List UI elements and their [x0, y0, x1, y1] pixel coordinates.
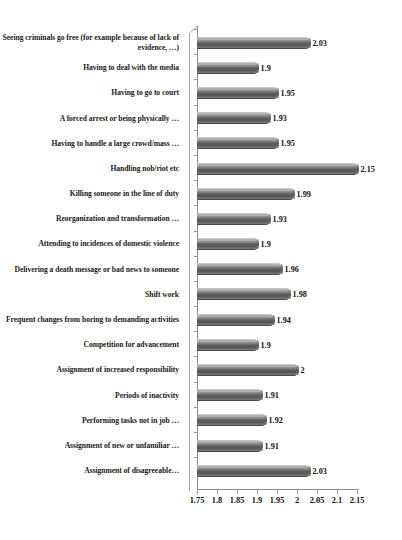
bar-value-label: 1.91 [265, 441, 279, 450]
category-label: Having to go to court [0, 88, 185, 97]
bar-chart: Seeing criminals go free (for example be… [0, 0, 402, 540]
bar-row: Assignment of new or unfamiliar …1.91 [0, 433, 402, 458]
bar-row: Reorganization and transformation …1.93 [0, 206, 402, 231]
bar [197, 465, 309, 477]
bar-value-label: 1.95 [281, 88, 295, 97]
bar-row: Assignment of disagreeable…2.03 [0, 458, 402, 483]
x-axis-tick [197, 489, 198, 494]
x-axis-tick [357, 489, 358, 494]
bar-value-label: 1.9 [261, 340, 271, 349]
bar-plot-cell: 1.91 [185, 383, 402, 408]
category-label: Competition for advancement [0, 340, 185, 349]
bar-plot-cell: 1.94 [185, 307, 402, 332]
bar-value-label: 1.93 [273, 214, 287, 223]
bar-plot-cell: 1.93 [185, 206, 402, 231]
x-axis-tick [337, 489, 338, 494]
bar-value-label: 1.99 [297, 189, 311, 198]
y-axis-tick [194, 457, 198, 458]
x-axis-tick-label: 2.1 [332, 496, 342, 505]
y-axis-tick [194, 331, 198, 332]
bar-plot-cell: 2.03 [185, 458, 402, 483]
x-axis-tick [217, 489, 218, 494]
y-axis-tick [194, 306, 198, 307]
category-label: A forced arrest or being physically … [0, 114, 185, 123]
category-label: Attending to incidences of domestic viol… [0, 239, 185, 248]
bar-plot-cell: 2.15 [185, 156, 402, 181]
bar-value-label: 1.9 [261, 63, 271, 72]
bar-value-label: 2.03 [313, 466, 327, 475]
bar-row: Performing tasks not in job …1.92 [0, 408, 402, 433]
x-axis-tick-label: 1.85 [230, 496, 245, 505]
bar-plot-cell: 1.95 [185, 131, 402, 156]
bar [197, 263, 281, 275]
bar-row: Competition for advancement1.9 [0, 332, 402, 357]
bar-row: Having to go to court1.95 [0, 80, 402, 105]
x-axis-tick-label: 1.9 [252, 496, 262, 505]
x-axis-tick [257, 489, 258, 494]
y-axis-tick [194, 231, 198, 232]
bar-row: Killing someone in the line of duty1.99 [0, 181, 402, 206]
bar [197, 389, 261, 401]
bar [197, 288, 289, 300]
bar-plot-cell: 1.9 [185, 55, 402, 80]
bar-value-label: 1.93 [273, 114, 287, 123]
category-label: Having to handle a large crowd/mass … [0, 139, 185, 148]
y-axis-tick [194, 155, 198, 156]
bar-value-label: 1.95 [281, 139, 295, 148]
bar-plot-cell: 1.9 [185, 332, 402, 357]
bar-value-label: 1.9 [261, 240, 271, 249]
bar [197, 137, 277, 149]
bar [197, 112, 269, 124]
bar [197, 314, 273, 326]
bar-row: Seeing criminals go free (for example be… [0, 30, 402, 55]
bar-value-label: 2.03 [313, 38, 327, 47]
bar-plot-cell: 1.96 [185, 257, 402, 282]
x-axis-tick-label: 2.15 [350, 496, 365, 505]
x-axis-tick [297, 489, 298, 494]
bar-value-label: 1.92 [269, 416, 283, 425]
y-axis-tick [194, 382, 198, 383]
bar-plot-cell: 1.9 [185, 232, 402, 257]
category-label: Seeing criminals go free (for example be… [0, 33, 185, 52]
bar [197, 62, 257, 74]
bar-value-label: 1.94 [277, 315, 291, 324]
bar-row: Having to deal with the media1.9 [0, 55, 402, 80]
x-axis-tick-label: 2 [295, 496, 299, 505]
bar-value-label: 1.96 [285, 265, 299, 274]
bar-plot-cell: 2 [185, 357, 402, 382]
bar-rows: Seeing criminals go free (for example be… [0, 30, 402, 483]
y-axis-tick [194, 356, 198, 357]
y-axis-tick [194, 256, 198, 257]
bar-row: Frequent changes from boring to demandin… [0, 307, 402, 332]
bar-value-label: 2.15 [361, 164, 375, 173]
bar-value-label: 1.91 [265, 391, 279, 400]
y-axis-tick [194, 180, 198, 181]
x-axis-tick [317, 489, 318, 494]
y-axis-tick [194, 79, 198, 80]
bar [197, 339, 257, 351]
bar [197, 364, 297, 376]
y-axis-tick [194, 29, 198, 30]
x-axis-tick [277, 489, 278, 494]
bar-row: Assignment of increased responsibility2 [0, 357, 402, 382]
category-label: Delivering a death message or bad news t… [0, 265, 185, 274]
bar-plot-cell: 2.03 [185, 30, 402, 55]
category-label: Shift work [0, 290, 185, 299]
bar-row: Periods of inactivity1.91 [0, 383, 402, 408]
y-axis-tick [194, 281, 198, 282]
bar [197, 37, 309, 49]
y-axis-tick [194, 54, 198, 55]
bar-row: Having to handle a large crowd/mass …1.9… [0, 131, 402, 156]
category-label: Assignment of disagreeable… [0, 466, 185, 475]
bar [197, 440, 261, 452]
category-label: Assignment of new or unfamiliar … [0, 441, 185, 450]
y-axis-tick [194, 407, 198, 408]
bar [197, 213, 269, 225]
category-label: Killing someone in the line of duty [0, 189, 185, 198]
bar-row: Shift work1.98 [0, 282, 402, 307]
x-axis-tick [237, 489, 238, 494]
bar [197, 238, 257, 250]
bar-plot-cell: 1.93 [185, 106, 402, 131]
bar-plot-cell: 1.98 [185, 282, 402, 307]
category-label: Having to deal with the media [0, 63, 185, 72]
